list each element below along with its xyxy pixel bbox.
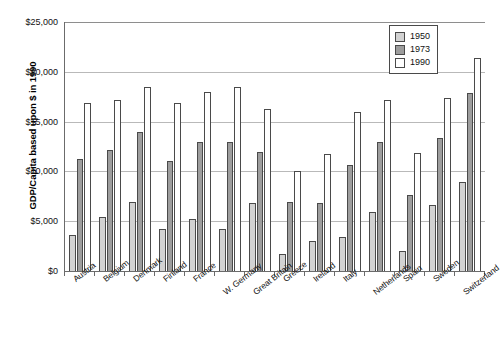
- legend-swatch: [395, 32, 405, 42]
- bar: [204, 92, 211, 271]
- bar: [309, 241, 316, 271]
- x-axis-tick: [214, 271, 215, 276]
- bar: [167, 161, 174, 271]
- y-axis-tick-labels: $0$5,000$10,000$15,000$20,000$25,000: [0, 0, 58, 343]
- bar-group: [65, 22, 95, 271]
- x-axis-tick: [64, 271, 65, 276]
- bar: [69, 235, 76, 271]
- legend-label: 1990: [410, 56, 430, 69]
- x-axis-tick: [184, 271, 185, 276]
- y-axis-tick-label: $25,000: [6, 17, 58, 27]
- bar: [437, 138, 444, 271]
- bar: [234, 87, 241, 271]
- x-axis-tick: [94, 271, 95, 276]
- bar-group: [125, 22, 155, 271]
- x-axis-tick: [424, 271, 425, 276]
- legend-label: 1950: [410, 30, 430, 43]
- legend-item: 1990: [395, 56, 430, 69]
- y-axis-tick-label: $15,000: [6, 117, 58, 127]
- bar: [369, 212, 376, 271]
- chart-legend: 195019731990: [389, 25, 438, 74]
- x-axis-tick-labels: AustriaBelgiumDenmarkFinlandFranceW. Ger…: [64, 276, 484, 342]
- bar-group: [185, 22, 215, 271]
- y-axis-tick-label: $0: [6, 266, 58, 276]
- bar: [317, 203, 324, 271]
- bar: [459, 182, 466, 271]
- bar: [474, 58, 481, 271]
- legend-swatch: [395, 45, 405, 55]
- bar: [347, 165, 354, 271]
- bar: [429, 205, 436, 271]
- bar-group: [95, 22, 125, 271]
- bar: [324, 154, 331, 271]
- x-axis-tick: [154, 271, 155, 276]
- bar-group: [305, 22, 335, 271]
- bar: [144, 87, 151, 271]
- bar: [137, 132, 144, 271]
- bar: [339, 237, 346, 271]
- legend-swatch: [395, 58, 405, 68]
- bar: [354, 112, 361, 271]
- bar-group: [215, 22, 245, 271]
- bar: [77, 159, 84, 271]
- bar: [444, 98, 451, 271]
- x-axis-tick: [454, 271, 455, 276]
- y-axis-tick-label: $5,000: [6, 216, 58, 226]
- bar: [377, 142, 384, 271]
- bar: [227, 142, 234, 271]
- legend-item: 1950: [395, 30, 430, 43]
- y-axis-tick-label: $20,000: [6, 67, 58, 77]
- bar-group: [275, 22, 305, 271]
- bar: [249, 203, 256, 271]
- bar: [189, 219, 196, 271]
- y-axis-tick-label: $10,000: [6, 166, 58, 176]
- bar: [107, 150, 114, 271]
- bar-group: [335, 22, 365, 271]
- bar: [84, 103, 91, 271]
- bar: [129, 202, 136, 271]
- bar: [197, 142, 204, 271]
- bar: [264, 109, 271, 271]
- bar: [407, 195, 414, 271]
- x-axis-tick: [124, 271, 125, 276]
- x-axis-tick: [334, 271, 335, 276]
- bar: [114, 100, 121, 271]
- bar: [384, 100, 391, 271]
- bar-group: [455, 22, 485, 271]
- bar: [174, 103, 181, 271]
- bar: [294, 171, 301, 271]
- legend-item: 1973: [395, 43, 430, 56]
- legend-label: 1973: [410, 43, 430, 56]
- x-axis-tick: [304, 271, 305, 276]
- bar: [219, 229, 226, 271]
- x-axis-tick: [364, 271, 365, 276]
- bar-group: [155, 22, 185, 271]
- bar-group: [245, 22, 275, 271]
- bar: [99, 217, 106, 271]
- bar: [414, 153, 421, 271]
- bar: [257, 152, 264, 271]
- bar: [467, 93, 474, 271]
